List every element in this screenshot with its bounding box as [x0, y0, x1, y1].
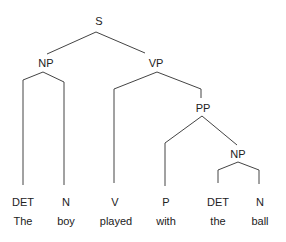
leaf-tag-det-1: DET: [12, 196, 34, 208]
edge-s-np: [47, 32, 96, 54]
leaf-tag-v: V: [111, 196, 119, 208]
leaf-tag-n-1: N: [62, 196, 70, 208]
leaf-word-ball: ball: [251, 215, 268, 227]
edge-pp-p: [165, 116, 202, 186]
leaf-word-the-2: the: [210, 215, 225, 227]
leaf-word-with: with: [155, 215, 176, 227]
node-np-object: NP: [230, 148, 245, 160]
edge-np2-det: [218, 162, 238, 183]
leaf-tag-det-2: DET: [207, 196, 229, 208]
leaf-word-the: The: [14, 215, 33, 227]
leaf-tag-n-2: N: [256, 196, 264, 208]
parse-tree-diagram: S NP VP PP NP DET N V P DET N The boy pl…: [0, 0, 286, 242]
node-np-subject: NP: [38, 57, 53, 69]
leaf-word-played: played: [100, 215, 132, 227]
node-pp: PP: [196, 102, 211, 114]
edge-vp-v: [114, 72, 157, 183]
leaf-word-boy: boy: [57, 215, 75, 227]
leaf-tag-p: P: [162, 196, 169, 208]
edge-np-n: [43, 72, 64, 185]
node-vp: VP: [149, 57, 164, 69]
edge-s-vp: [96, 32, 145, 53]
edge-vp-pp: [157, 72, 201, 98]
edge-pp-np: [202, 116, 237, 145]
edge-np-det: [23, 72, 43, 185]
node-s: S: [95, 15, 102, 27]
edge-np2-n: [238, 162, 259, 184]
